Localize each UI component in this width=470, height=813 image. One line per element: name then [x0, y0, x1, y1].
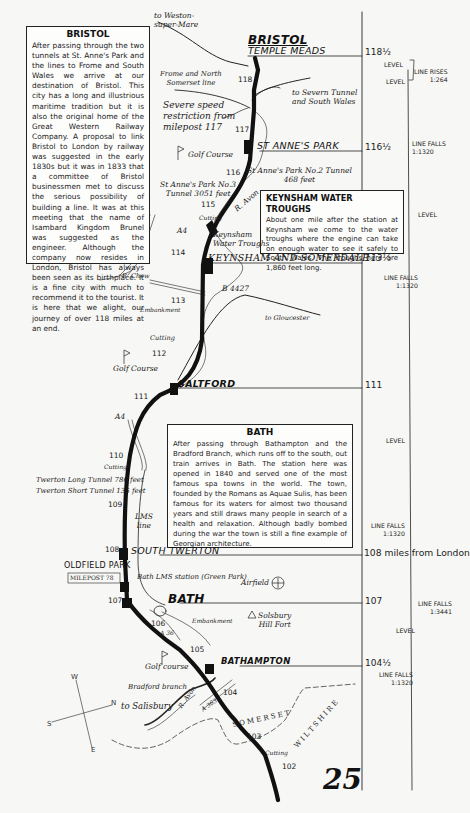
milepost-111: 111 [134, 392, 148, 401]
label-lms-line: LMS line [135, 512, 153, 530]
label-milepost-78: MILEPOST 78 [70, 573, 114, 582]
compass-east: E [91, 746, 95, 754]
gradient-falls: LINE FALLS 1:1320 [371, 522, 405, 537]
milepost-102: 102 [282, 762, 296, 771]
mileage-temple-meads: 118½ [365, 47, 391, 57]
mileage-st-annes-park: 116½ [365, 142, 391, 152]
milepost-105: 105 [190, 645, 204, 654]
label-cutting-1: Cutting [199, 213, 222, 222]
mileage-keynsham: 113½ [365, 253, 391, 263]
gradient-level: LEVEL [384, 61, 403, 69]
bath-box-text: After passing through Bathampton and the… [173, 439, 347, 549]
bath-info-box: BATH After passing through Bathampton an… [167, 424, 353, 548]
station-bath: BATH [168, 592, 205, 606]
label-river-chew: R. Chew [122, 272, 150, 281]
label-to-salisbury: to Salisbury [121, 702, 173, 711]
gradient-rises: LINE RISES 1:264 [414, 68, 448, 83]
milepost-108: 108 [105, 545, 119, 554]
milepost-109: 109 [108, 500, 122, 509]
label-bradford-branch: Bradford branch [128, 683, 187, 692]
bristol-info-box: BRISTOL After passing through the two tu… [26, 26, 150, 264]
mileage-south-twerton: 108 miles from London [364, 547, 470, 558]
label-frome: Frome and North Somerset line [160, 70, 222, 88]
keynsham-box-text: About one mile after the station at Keyn… [266, 216, 398, 273]
station-st-annes-park: ST ANNE'S PARK [257, 140, 339, 151]
label-severn-tunnel: to Severn Tunnel and South Wales [292, 88, 357, 106]
milepost-112: 112 [152, 349, 166, 358]
gradient-falls: LINE FALLS 1:3441 [418, 600, 452, 615]
keynsham-info-box: KEYNSHAM WATER TROUGHS About one mile af… [260, 190, 404, 254]
gradient-falls: LINE FALLS 1:1320 [384, 274, 418, 289]
bristol-box-title: BRISTOL [32, 29, 144, 40]
label-a4-2: A4 [115, 412, 125, 421]
label-solsbury: Solsbury Hill Fort [258, 611, 291, 629]
milepost-116: 116 [226, 168, 240, 177]
label-airfield: Airfield [241, 578, 269, 587]
label-a36: A 36 [160, 628, 174, 637]
keynsham-box-title: KEYNSHAM WATER TROUGHS [266, 193, 398, 215]
label-to-gloucester: to Gloucester [265, 314, 309, 323]
label-cutting-4: Cutting [265, 748, 288, 757]
milepost-103: 103 [247, 732, 261, 741]
milepost-114: 114 [171, 248, 185, 257]
bath-box-title: BATH [173, 427, 347, 438]
label-golf-course-3: Golf course [145, 662, 188, 671]
milepost-113: 113 [171, 296, 185, 305]
label-tunnel-no3: St Anne's Park No.3 Tunnel 3051 feet [160, 180, 236, 198]
label-a4-1: A4 [177, 226, 187, 235]
label-golf-course-2: Golf Course [113, 364, 158, 373]
station-south-twerton: SOUTH TWERTON [131, 545, 220, 556]
label-water-troughs: Keynsham Water Troughs [213, 230, 269, 248]
milepost-117: 117 [235, 125, 249, 134]
station-oldfield-park: OLDFIELD PARK [64, 561, 131, 570]
label-tunnel-no2: St Anne's Park No.2 Tunnel 468 feet [247, 166, 352, 184]
gradient-falls: LINE FALLS 1:1320 [379, 671, 413, 686]
station-temple-meads: TEMPLE MEADS [248, 45, 326, 56]
gradient-level: LEVEL [386, 437, 405, 445]
label-embankment-1: Embankment [140, 305, 181, 314]
mileage-bath: 107 [365, 596, 382, 606]
mileage-saltford: 111 [365, 380, 382, 390]
label-twerton-short-tunnel: Twerton Short Tunnel 135 feet [36, 487, 146, 496]
milepost-110: 110 [109, 451, 123, 460]
label-green-park: Bath LMS station (Green Park) [137, 573, 247, 582]
compass-west: W [71, 673, 78, 681]
bristol-box-text: After passing through the two tunnels at… [32, 41, 144, 334]
compass-south: S [47, 720, 51, 728]
milepost-106: 106 [151, 619, 165, 628]
label-weston: to Weston- super-Mare [154, 11, 198, 29]
label-golf-course-1: Golf Course [188, 150, 233, 159]
label-severe-speed: Severe speed restriction from milepost 1… [163, 100, 235, 133]
milepost-107: 107 [108, 596, 122, 605]
gradient-level: LEVEL [396, 627, 415, 635]
station-keynsham: KEYNSHAM AND SOMERDALE [208, 252, 369, 263]
compass-north: N [111, 699, 116, 707]
station-saltford: SALTFORD [178, 378, 235, 389]
gradient-level: LEVEL [386, 78, 405, 86]
label-embankment-2: Embankment [192, 616, 233, 625]
milepost-118: 118 [238, 75, 252, 84]
page-number: 25 [323, 763, 362, 796]
label-twerton-long-tunnel: Twerton Long Tunnel 786 feet [36, 476, 144, 485]
station-bathampton: BATHAMPTON [221, 656, 291, 666]
gradient-falls: LINE FALLS 1:1320 [412, 140, 446, 155]
mileage-bathampton: 104½ [365, 658, 391, 668]
milepost-115: 115 [201, 200, 215, 209]
label-cutting-2: Cutting [150, 334, 175, 343]
label-cutting-3: Cutting [104, 462, 127, 471]
milepost-104: 104 [223, 688, 237, 697]
gradient-level: LEVEL [418, 211, 437, 219]
label-b4427: B 4427 [222, 284, 249, 293]
